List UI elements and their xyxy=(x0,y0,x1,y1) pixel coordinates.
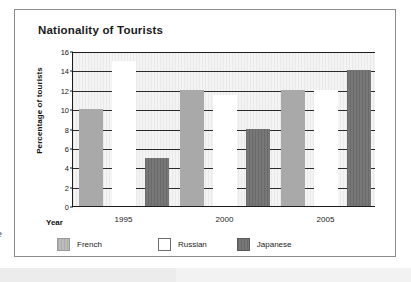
x-axis-tick-label: 2005 xyxy=(317,215,335,224)
gridline xyxy=(73,52,375,53)
page-bottom-band-highlight xyxy=(0,268,176,282)
chart-card: Nationality of Tourists Percentage of to… xyxy=(14,9,396,257)
y-axis-tick-label: 12 xyxy=(61,86,69,95)
page-bottom-band xyxy=(0,268,411,282)
y-axis-tick-mark xyxy=(70,90,73,91)
bar-japanese-1995 xyxy=(145,158,169,206)
y-axis-tick-label: 2 xyxy=(65,183,69,192)
y-axis-tick-mark xyxy=(70,207,73,208)
plot-area: 0246810121416 199520002005 xyxy=(72,52,375,207)
legend-swatch-french xyxy=(57,238,70,251)
y-axis-tick-label: 10 xyxy=(61,106,69,115)
page-root: e Nationality of Tourists Percentage of … xyxy=(0,0,411,282)
x-axis-tick-label: 1995 xyxy=(115,215,133,224)
legend-swatch-russian xyxy=(158,238,171,251)
legend-label-russian: Russian xyxy=(178,240,207,249)
y-axis-tick-label: 0 xyxy=(65,203,69,212)
legend-label-french: French xyxy=(77,240,102,249)
y-axis-tick-label: 14 xyxy=(61,67,69,76)
legend-item-french[interactable]: French xyxy=(57,238,102,251)
x-axis-tick-label: 2000 xyxy=(216,215,234,224)
bar-japanese-2005 xyxy=(347,70,371,206)
page-margin-glyph: e xyxy=(0,228,2,239)
bar-french-1995 xyxy=(79,109,103,206)
y-axis-tick-mark xyxy=(70,129,73,130)
legend-label-japanese: Japanese xyxy=(257,240,292,249)
bar-russian-2000 xyxy=(213,95,237,206)
y-axis-tick-label: 6 xyxy=(65,144,69,153)
y-axis-tick-mark xyxy=(70,71,73,72)
y-axis-tick-mark xyxy=(70,148,73,149)
legend-item-japanese[interactable]: Japanese xyxy=(237,238,292,251)
legend-item-russian[interactable]: Russian xyxy=(158,238,207,251)
y-axis-tick-label: 16 xyxy=(61,48,69,57)
plot-wrapper: 0246810121416 199520002005 xyxy=(72,52,375,207)
y-axis-tick-label: 4 xyxy=(65,164,69,173)
chart-title: Nationality of Tourists xyxy=(38,24,163,36)
chart-legend: FrenchRussianJapanese xyxy=(57,238,292,251)
bar-russian-1995 xyxy=(112,61,136,206)
y-axis-tick-mark xyxy=(70,52,73,53)
y-axis-tick-mark xyxy=(70,168,73,169)
bar-russian-2005 xyxy=(314,90,338,206)
legend-swatch-japanese xyxy=(237,238,250,251)
bar-japanese-2000 xyxy=(246,129,270,207)
bar-french-2005 xyxy=(281,90,305,206)
y-axis-tick-mark xyxy=(70,110,73,111)
x-axis-title: Year xyxy=(46,218,63,227)
y-axis-title: Percentage of tourists xyxy=(35,57,44,165)
bar-french-2000 xyxy=(180,90,204,206)
y-axis-tick-mark xyxy=(70,187,73,188)
y-axis-tick-label: 8 xyxy=(65,125,69,134)
